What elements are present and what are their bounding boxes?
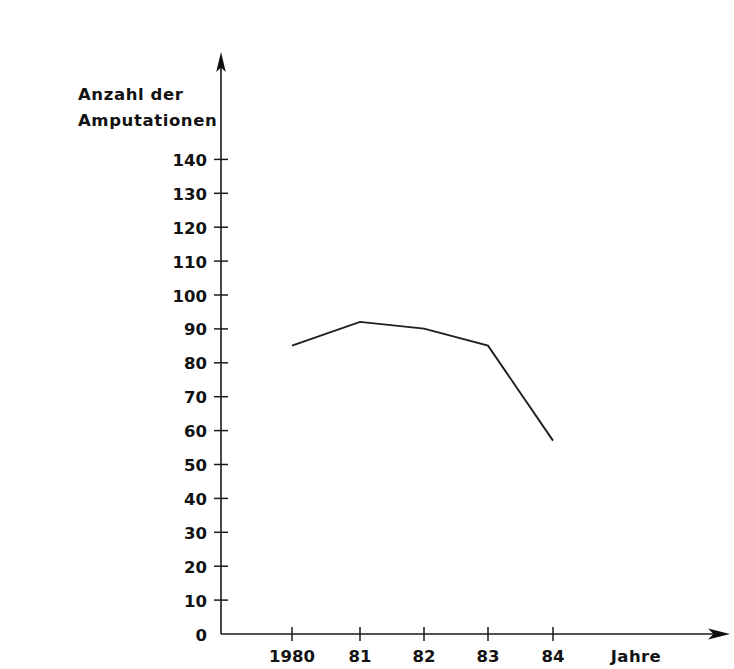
y-tick-label: 70 [184,388,207,407]
y-tick-label: 90 [184,320,207,339]
x-tick-label: 84 [542,647,565,666]
y-tick-label: 40 [184,490,207,509]
y-tick-label: 20 [184,558,207,577]
y-tick-label: 80 [184,354,207,373]
y-tick-label: 100 [173,287,207,306]
y-tick-label: 0 [196,626,207,645]
x-tick-label: 82 [413,647,436,666]
y-tick-label: 110 [173,253,207,272]
y-tick-label: 10 [184,592,207,611]
x-tick-label: 83 [477,647,500,666]
y-tick-label: 120 [173,219,207,238]
y-tick-label: 30 [184,524,207,543]
x-tick-label: 81 [349,647,372,666]
x-axis-tick-labels: 1980 81 82 83 84 [269,647,564,666]
y-tick-label: 140 [173,151,207,170]
x-tick-label: 1980 [269,647,315,666]
y-axis-title-line-2: Amputationen [78,111,217,130]
data-series-line [292,322,553,441]
y-tick-label: 130 [173,185,207,204]
chart-canvas: 0 10 20 30 40 50 60 70 80 90 100 110 120… [40,16,734,669]
y-tick-label: 50 [184,456,207,475]
amputations-line-chart: 0 10 20 30 40 50 60 70 80 90 100 110 120… [40,16,734,669]
y-tick-label: 60 [184,422,207,441]
x-axis-title: Jahre [610,647,661,666]
y-axis-tick-labels: 0 10 20 30 40 50 60 70 80 90 100 110 120… [173,151,207,645]
y-axis-title-line-1: Anzahl der [78,85,184,104]
